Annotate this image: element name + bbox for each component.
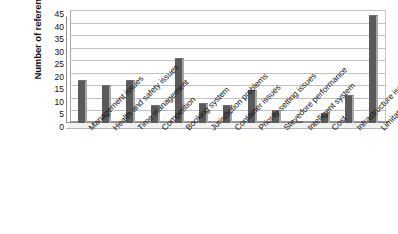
y-tick-label-15: 15 (55, 85, 64, 93)
y-tick-label-0: 0 (59, 123, 64, 131)
x-axis-tick-labels: Management issuesHealth and safety issue… (66, 126, 396, 234)
y-tick-label-5: 5 (59, 110, 64, 118)
y-tick-label-20: 20 (55, 73, 64, 81)
x-tick-label: Competition (160, 126, 166, 132)
y-tick-label-35: 35 (55, 35, 64, 43)
x-tick-label: Cost (330, 126, 336, 132)
y-axis-tick-labels: 454035302520151050 (44, 12, 64, 125)
x-tick-label: Limitation at port (379, 126, 385, 132)
x-tick-label: Health and safety issues (111, 126, 117, 132)
y-tick-label-10: 10 (55, 98, 64, 106)
x-tick-label: Container issues (233, 126, 239, 132)
y-axis-title: Number of references (32, 0, 43, 87)
x-tick-label: Jurisdiction problems (209, 126, 215, 132)
y-axis-line (66, 16, 67, 123)
x-tick-label: Infrastructure issues (355, 126, 361, 132)
bar-chart: Number of references 454035302520151050 … (0, 0, 398, 234)
x-tick-label: Priority setting issues (257, 126, 263, 132)
x-tick-label: Management issues (87, 126, 93, 132)
x-tick-label: Booking system (184, 126, 190, 132)
y-tick-label-40: 40 (55, 23, 64, 31)
y-tick-label-25: 25 (55, 60, 64, 68)
y-tick-label-45: 45 (55, 10, 64, 18)
x-tick-label: Stevedore performance (282, 126, 288, 132)
bar-slot (70, 10, 94, 123)
x-tick-label: Intelligent system (306, 126, 312, 132)
y-tick-label-30: 30 (55, 48, 64, 56)
bar (78, 80, 87, 123)
x-tick-label: Time management (136, 126, 142, 132)
